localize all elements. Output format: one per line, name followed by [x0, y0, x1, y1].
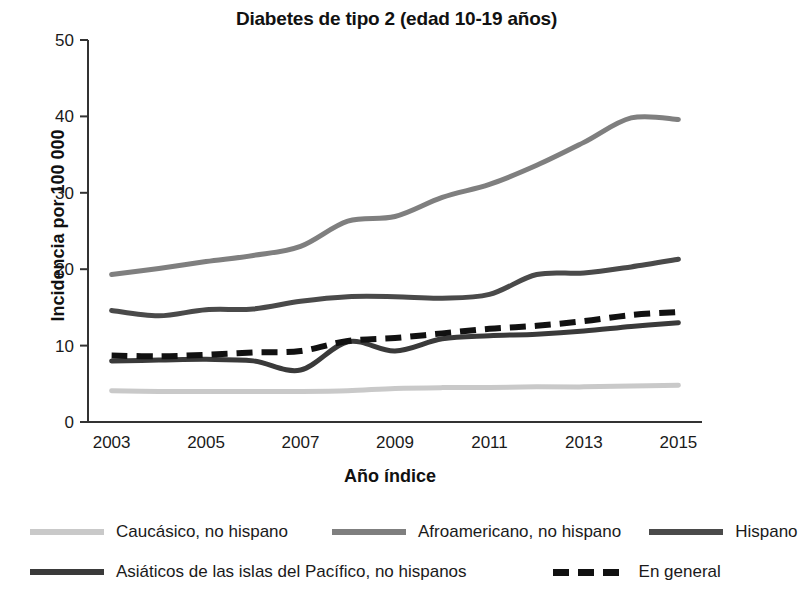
legend-row-1: Caucásico, no hispano Afroamericano, no … [0, 512, 793, 552]
series-group [112, 117, 679, 392]
chart-legend: Caucásico, no hispano Afroamericano, no … [0, 512, 793, 592]
series-line-asiaticos-de-las-islas-del-p [112, 323, 679, 371]
y-tick-label: 30 [55, 184, 74, 203]
series-line-hispano [112, 259, 679, 316]
legend-row-2: Asiáticos de las islas del Pacífico, no … [0, 552, 793, 592]
legend-label-afroamericano: Afroamericano, no hispano [418, 522, 621, 542]
legend-swatch-caucasico [30, 529, 104, 535]
legend-item-caucasico[interactable]: Caucásico, no hispano [30, 522, 288, 542]
series-line-afroamericano-no-hispano [112, 117, 679, 275]
legend-swatch-afroamericano [332, 529, 406, 535]
legend-item-hispano[interactable]: Hispano [649, 522, 797, 542]
x-tick-label: 2007 [282, 433, 320, 452]
y-tick-label: 20 [55, 260, 74, 279]
x-tick-label: 2003 [93, 433, 131, 452]
y-tick-label: 10 [55, 337, 74, 356]
legend-swatch-en-general [553, 569, 627, 576]
legend-label-asiaticos: Asiáticos de las islas del Pacífico, no … [116, 562, 467, 582]
legend-swatch-hispano [649, 529, 723, 535]
y-tick-label: 40 [55, 107, 74, 126]
legend-label-en-general: En general [639, 562, 721, 582]
x-tick-label: 2013 [565, 433, 603, 452]
legend-swatch-asiaticos [30, 569, 104, 575]
axes [88, 40, 702, 422]
legend-item-asiaticos[interactable]: Asiáticos de las islas del Pacífico, no … [30, 562, 467, 582]
x-tick-label: 2011 [471, 433, 508, 452]
y-tick-group: 01020304050 [55, 31, 88, 432]
y-tick-label: 0 [65, 413, 74, 432]
y-tick-label: 50 [55, 31, 74, 50]
legend-item-afroamericano[interactable]: Afroamericano, no hispano [332, 522, 621, 542]
x-tick-label: 2015 [659, 433, 697, 452]
series-line-caucasico-no-hispano [112, 385, 679, 391]
legend-label-caucasico: Caucásico, no hispano [116, 522, 288, 542]
legend-label-hispano: Hispano [735, 522, 797, 542]
x-tick-group: 2003200520072009201120132015 [93, 433, 698, 452]
x-tick-label: 2005 [187, 433, 225, 452]
legend-item-en-general[interactable]: En general [553, 562, 721, 582]
x-tick-label: 2009 [376, 433, 414, 452]
